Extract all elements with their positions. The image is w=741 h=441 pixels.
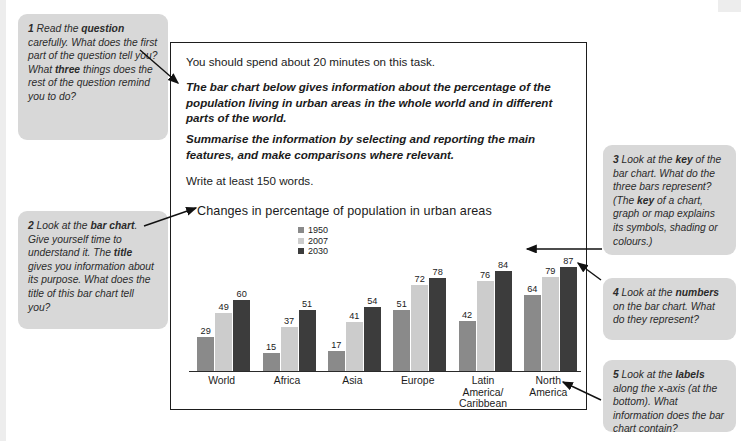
bar-value-label: 72 (415, 274, 425, 284)
callout-2-text-e: gives you information about its purpose.… (28, 261, 154, 313)
callout-2-text-d: title (114, 247, 132, 258)
bar-item: 72 (411, 238, 428, 371)
bar-2030 (299, 310, 316, 371)
bar-cluster: 647987 (524, 238, 578, 371)
bar-1950 (197, 337, 214, 372)
callout-1-text-d: three (55, 64, 80, 75)
legend-label-1950: 1950 (308, 225, 328, 236)
bar-value-label: 41 (349, 311, 359, 321)
bar-item: 54 (364, 238, 381, 371)
bar-item: 64 (524, 238, 541, 371)
callout-1: 1 Read the question carefully. What does… (18, 14, 168, 140)
callout-3-text-a: Look at the (622, 154, 676, 165)
bar-item: 42 (459, 238, 476, 371)
bar-value-label: 78 (433, 267, 443, 277)
bar-2030 (364, 307, 381, 371)
callout-2: 2 Look at the bar chart. Give yourself t… (18, 211, 168, 329)
bar-2007 (346, 322, 363, 371)
bar-value-label: 17 (331, 340, 341, 350)
bar-item: 37 (281, 238, 298, 371)
bar-2030 (560, 267, 577, 371)
bar-value-label: 29 (201, 326, 211, 336)
bar-1950 (263, 353, 280, 371)
bar-2007 (281, 327, 298, 371)
legend-swatch-1950 (298, 227, 304, 233)
callout-4-text-b: numbers (675, 287, 719, 298)
bar-value-label: 42 (462, 310, 472, 320)
x-axis-line (189, 371, 581, 372)
bar-2007 (411, 285, 428, 371)
bar-1950 (393, 310, 410, 371)
bar-2007 (477, 281, 494, 371)
bar-item: 49 (215, 238, 232, 371)
x-axis-label: Europe (385, 375, 450, 387)
bar-value-label: 54 (367, 296, 377, 306)
bar-value-label: 15 (266, 342, 276, 352)
bar-cluster: 427684 (459, 238, 513, 371)
scan-artifact-top-right (718, 0, 741, 12)
bar-cluster: 517278 (393, 238, 447, 371)
callout-2-text-b: bar chart (90, 220, 134, 231)
callout-5: 5 Look at the labels along the x-axis (a… (603, 360, 736, 432)
callout-5-text-c: along the x-axis (at the bottom). What i… (613, 383, 724, 435)
bar-value-label: 79 (545, 266, 555, 276)
bar-item: 87 (560, 238, 577, 371)
bar-1950 (524, 295, 541, 371)
bar-1950 (459, 321, 476, 371)
callout-5-text-b: labels (675, 369, 704, 380)
callout-5-text-a: Look at the (622, 369, 676, 380)
x-axis-label: Asia (320, 375, 385, 387)
bar-cluster: 153751 (263, 238, 317, 371)
bar-item: 51 (393, 238, 410, 371)
bar-item: 78 (429, 238, 446, 371)
bar-item: 60 (233, 238, 250, 371)
bar-2007 (542, 277, 559, 371)
task-prompt-summarise: Summarise the information by selecting a… (186, 131, 558, 162)
callout-2-text-a: Look at the (37, 220, 91, 231)
callout-4-text-c: on the bar chart. What do they represent… (613, 301, 715, 326)
x-axis-label: Africa (254, 375, 319, 387)
bar-item: 84 (495, 238, 512, 371)
callout-5-number: 5 (613, 369, 619, 380)
callout-4-text-a: Look at the (622, 287, 676, 298)
legend-item-1950: 1950 (298, 225, 328, 236)
callout-3-text-d: key (637, 195, 654, 206)
task-word-count: Write at least 150 words. (186, 173, 566, 189)
bar-value-label: 84 (498, 260, 508, 270)
bar-chart-plot: 294960153751174154517278427684647987 (189, 238, 581, 371)
x-axis-labels: WorldAfricaAsiaEuropeLatinAmerica/Caribb… (189, 375, 581, 415)
task-prompt-description: The bar chart below gives information ab… (186, 79, 568, 126)
bar-1950 (328, 351, 345, 371)
callout-3-text-b: key (675, 154, 692, 165)
bar-item: 29 (197, 238, 214, 371)
bar-item: 79 (542, 238, 559, 371)
bar-item: 41 (346, 238, 363, 371)
bar-value-label: 37 (284, 316, 294, 326)
bar-item: 17 (328, 238, 345, 371)
bar-2030 (429, 278, 446, 371)
callout-3-number: 3 (613, 154, 619, 165)
bar-value-label: 87 (563, 256, 573, 266)
scan-artifact-left (0, 0, 6, 441)
x-axis-label: NorthAmerica (516, 375, 581, 398)
x-axis-label: LatinAmerica/Caribbean (450, 375, 515, 410)
bar-item: 51 (299, 238, 316, 371)
task-instruction-time: You should spend about 20 minutes on thi… (186, 54, 566, 70)
bar-2007 (215, 313, 232, 371)
bar-value-label: 76 (480, 270, 490, 280)
bar-2030 (495, 271, 512, 371)
bar-cluster: 294960 (197, 238, 251, 371)
callout-4: 4 Look at the numbers on the bar chart. … (603, 278, 736, 340)
bar-value-label: 64 (527, 284, 537, 294)
bar-value-label: 51 (397, 299, 407, 309)
worksheet-page: 1 Read the question carefully. What does… (0, 0, 741, 441)
bar-2030 (233, 300, 250, 371)
callout-2-number: 2 (28, 220, 34, 231)
bar-cluster: 174154 (328, 238, 382, 371)
x-axis-label: World (189, 375, 254, 387)
bar-value-label: 51 (302, 299, 312, 309)
callout-1-number: 1 (28, 23, 34, 34)
bar-item: 15 (263, 238, 280, 371)
task-panel: You should spend about 20 minutes on thi… (170, 42, 587, 410)
bar-item: 76 (477, 238, 494, 371)
